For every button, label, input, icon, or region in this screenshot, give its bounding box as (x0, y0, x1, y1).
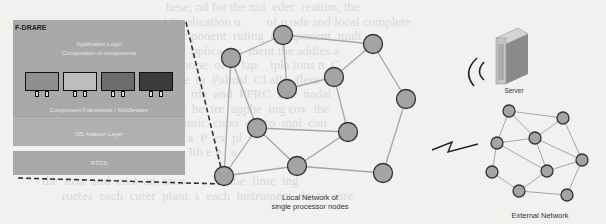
network-edge (509, 111, 563, 118)
network-edge (283, 35, 373, 44)
network-diagram (0, 0, 606, 224)
network-node-H (339, 123, 358, 142)
wireless-signal-icon (469, 58, 484, 86)
network-node-J (215, 167, 234, 186)
network-edge (519, 191, 567, 195)
network-node-c (529, 132, 541, 144)
network-edge (224, 166, 297, 176)
network-node-C (364, 35, 383, 54)
network-edge (563, 118, 582, 160)
network-node-I (288, 157, 307, 176)
network-node-G (248, 119, 267, 138)
network-node-K (374, 164, 393, 183)
network-node-g (486, 166, 498, 178)
network-node-E (325, 68, 344, 87)
network-node-f (541, 165, 553, 177)
network-node-B (274, 26, 293, 45)
network-node-b (557, 112, 569, 124)
network-edge (383, 99, 406, 173)
local-network-edges (224, 35, 406, 176)
network-node-i (561, 189, 573, 201)
network-node-A (222, 49, 241, 68)
network-edge (224, 58, 231, 176)
external-network-edges (492, 111, 582, 195)
network-node-d (491, 137, 503, 149)
server-label: Server (484, 86, 544, 95)
callout-dashed-line-bottom (18, 178, 222, 184)
network-node-h (513, 185, 525, 197)
network-edge (257, 128, 348, 132)
local-network-label-2: single processor nodes (255, 202, 365, 211)
local-network-label-1: Local Network of (255, 193, 365, 202)
external-network-label: External Network (500, 211, 580, 220)
local-network-nodes (215, 26, 416, 186)
network-edge (231, 58, 257, 128)
network-node-F (397, 90, 416, 109)
network-edge (497, 143, 547, 171)
wireless-link-zigzag-icon (432, 142, 478, 152)
network-node-a (503, 105, 515, 117)
network-node-D (278, 80, 297, 99)
server-icon (496, 28, 528, 84)
callout-dashed-line-top (186, 22, 222, 172)
external-network-nodes (486, 105, 588, 201)
network-node-e (576, 154, 588, 166)
network-edge (297, 166, 383, 173)
